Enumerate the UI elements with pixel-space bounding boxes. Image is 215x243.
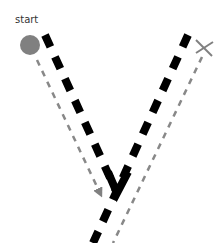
main-path-right-arm bbox=[93, 35, 188, 243]
start-marker-icon bbox=[20, 35, 40, 55]
end-marker-x-icon bbox=[196, 40, 213, 56]
main-path-junction bbox=[108, 172, 128, 193]
diagram-canvas bbox=[0, 0, 215, 243]
main-path-left-arm bbox=[45, 35, 117, 193]
guide-path-right bbox=[113, 57, 202, 243]
